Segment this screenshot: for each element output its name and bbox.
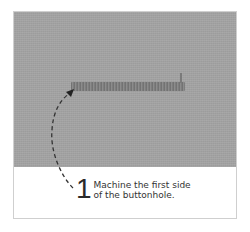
step-number: 1 [76,178,92,200]
step-caption: 1 Machine the first side of the buttonho… [76,178,191,200]
step-text: Machine the first side of the buttonhole… [94,180,191,200]
step-text-line-1: Machine the first side [94,180,191,190]
step-text-line-2: of the buttonhole. [94,190,191,200]
